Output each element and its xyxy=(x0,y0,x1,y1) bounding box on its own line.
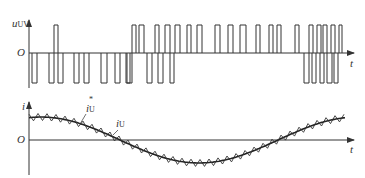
top-origin-label: O xyxy=(17,47,25,58)
top-t-label: t xyxy=(350,58,353,69)
negative-pulse xyxy=(304,53,309,83)
positive-pulse xyxy=(317,25,321,53)
negative-pulse xyxy=(147,53,152,83)
positive-pulse xyxy=(139,25,144,53)
positive-pulse xyxy=(277,25,281,53)
negative-pulse xyxy=(58,53,63,83)
bottom-origin-label: O xyxy=(17,134,25,145)
negative-pulse xyxy=(84,53,89,83)
bottom-t-label: t xyxy=(350,144,353,155)
pwm-waveform-diagram xyxy=(0,0,365,178)
positive-pulse xyxy=(54,25,58,53)
positive-pulse xyxy=(256,25,260,53)
negative-pulse xyxy=(158,53,163,83)
positive-pulse xyxy=(155,25,159,53)
bottom-current-plot xyxy=(29,102,354,175)
negative-pulse xyxy=(170,53,174,83)
negative-pulse xyxy=(74,53,79,83)
positive-pulse xyxy=(309,25,313,53)
negative-pulse xyxy=(320,53,324,83)
positive-pulse xyxy=(165,25,170,53)
positive-pulse xyxy=(269,25,273,53)
positive-pulse xyxy=(132,25,136,53)
top-y-label-sub: UV xyxy=(18,20,30,29)
bottom-y-label: i xyxy=(22,101,25,112)
ref-label-sub: U xyxy=(89,105,95,114)
reference-current-label: i*U xyxy=(86,103,95,114)
positive-pulse xyxy=(175,25,180,53)
negative-pulse xyxy=(32,53,37,83)
negative-pulse xyxy=(327,53,332,83)
positive-pulse xyxy=(331,25,335,53)
positive-pulse xyxy=(323,25,327,53)
negative-pulse xyxy=(49,53,54,83)
top-y-label: uUV xyxy=(12,18,29,29)
positive-pulse xyxy=(215,25,220,53)
negative-pulse xyxy=(101,53,107,83)
positive-pulse xyxy=(187,25,191,53)
actual-label-sub: U xyxy=(119,120,125,129)
positive-pulse xyxy=(339,25,342,53)
positive-pulse xyxy=(295,25,299,53)
positive-pulse xyxy=(228,25,233,53)
positive-pulse xyxy=(197,25,202,53)
top-voltage-plot xyxy=(29,20,354,88)
negative-pulse xyxy=(312,53,316,83)
negative-pulse xyxy=(334,53,338,83)
negative-pulse xyxy=(115,53,120,83)
actual-current-label: iU xyxy=(116,118,125,129)
actual-label-leader xyxy=(113,130,118,135)
voltage-pulses xyxy=(32,25,342,83)
ref-label-sup: * xyxy=(89,96,93,104)
ref-label-leader xyxy=(80,114,86,124)
positive-pulse xyxy=(240,25,246,53)
